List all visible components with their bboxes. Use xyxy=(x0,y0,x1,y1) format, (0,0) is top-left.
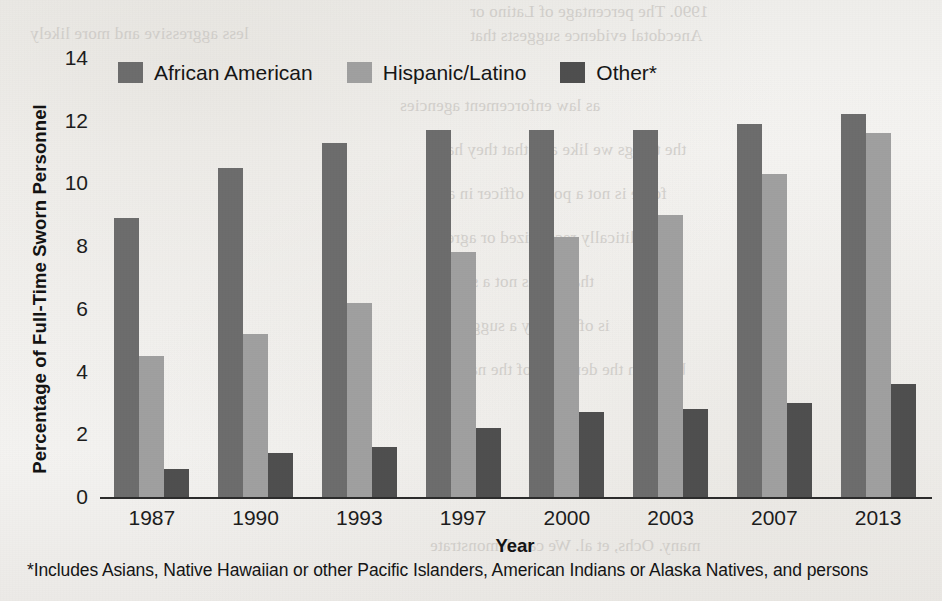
y-axis-ticks: 02468101214 xyxy=(26,0,88,601)
x-tick-label: 1993 xyxy=(308,503,412,535)
legend-item[interactable]: African American xyxy=(118,62,313,83)
x-tick-label: 2003 xyxy=(619,503,723,535)
x-tick-label: 2007 xyxy=(723,503,827,535)
x-tick-label: 1990 xyxy=(204,503,308,535)
bar[interactable] xyxy=(841,114,866,497)
bar[interactable] xyxy=(633,130,658,497)
legend-label: African American xyxy=(154,62,313,83)
x-tick-label: 1997 xyxy=(411,503,515,535)
legend-swatch-icon xyxy=(118,62,143,83)
legend-item[interactable]: Hispanic/Latino xyxy=(347,62,527,83)
y-tick-label: 6 xyxy=(44,297,88,321)
chart-footnote: *Includes Asians, Native Hawaiian or oth… xyxy=(27,560,868,581)
bar[interactable] xyxy=(347,303,372,497)
bar-group xyxy=(723,58,827,497)
y-tick-label: 2 xyxy=(44,422,88,446)
y-tick-label: 12 xyxy=(44,109,88,133)
bar[interactable] xyxy=(243,334,268,497)
legend-label: Hispanic/Latino xyxy=(383,62,527,83)
bar-group xyxy=(100,58,204,497)
bar[interactable] xyxy=(737,124,762,497)
bar[interactable] xyxy=(554,237,579,497)
chart-legend: African AmericanHispanic/LatinoOther* xyxy=(118,58,691,86)
bar[interactable] xyxy=(866,133,891,497)
x-tick-label: 2000 xyxy=(515,503,619,535)
bar-group xyxy=(411,58,515,497)
bar[interactable] xyxy=(683,409,708,497)
bar[interactable] xyxy=(476,428,501,497)
bar[interactable] xyxy=(218,168,243,497)
x-axis-ticks: 19871990199319972000200320072013 xyxy=(100,503,930,535)
x-axis-line xyxy=(100,497,932,499)
bar-chart: Percentage of Full-Time Sworn Personnel … xyxy=(0,0,942,601)
x-axis-title: Year xyxy=(100,535,930,557)
bar-group xyxy=(826,58,930,497)
legend-swatch-icon xyxy=(560,62,585,83)
bar-group xyxy=(619,58,723,497)
bar-group xyxy=(308,58,412,497)
bar[interactable] xyxy=(426,130,451,497)
bar[interactable] xyxy=(658,215,683,497)
bar[interactable] xyxy=(372,447,397,497)
bar[interactable] xyxy=(139,356,164,497)
bar[interactable] xyxy=(451,252,476,497)
plot-area xyxy=(100,58,930,497)
x-tick-label: 1987 xyxy=(100,503,204,535)
y-tick-label: 4 xyxy=(44,360,88,384)
bar[interactable] xyxy=(787,403,812,497)
x-tick-label: 2013 xyxy=(826,503,930,535)
y-tick-label: 8 xyxy=(44,234,88,258)
bar[interactable] xyxy=(164,469,189,497)
bar[interactable] xyxy=(322,143,347,497)
bar[interactable] xyxy=(579,412,604,497)
legend-label: Other* xyxy=(596,62,657,83)
bar-group xyxy=(515,58,619,497)
legend-item[interactable]: Other* xyxy=(560,62,657,83)
y-tick-label: 14 xyxy=(44,46,88,70)
bar[interactable] xyxy=(762,174,787,497)
legend-swatch-icon xyxy=(347,62,372,83)
bar[interactable] xyxy=(268,453,293,497)
y-tick-label: 10 xyxy=(44,171,88,195)
bar[interactable] xyxy=(114,218,139,497)
bar-group xyxy=(204,58,308,497)
chart-page: 1990. The percentage of Latino or Anecdo… xyxy=(0,0,942,601)
y-tick-label: 0 xyxy=(44,485,88,509)
bar[interactable] xyxy=(891,384,916,497)
bar[interactable] xyxy=(529,130,554,497)
